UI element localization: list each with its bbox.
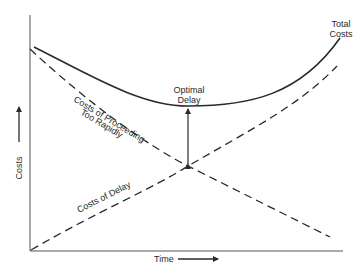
optimal-delay-label-line1: Optimal bbox=[173, 85, 204, 95]
cost-tradeoff-diagram: Costs Time Total Costs Optimal Delay Cos… bbox=[0, 0, 364, 276]
costs-proceeding-line bbox=[30, 49, 330, 237]
x-axis-label: Time bbox=[154, 254, 174, 264]
optimal-delay-label-line2: Delay bbox=[177, 95, 201, 105]
total-costs-label-line2: Costs bbox=[329, 29, 353, 39]
y-axis-label: Costs bbox=[14, 156, 24, 180]
costs-delay-label: Costs of Delay bbox=[75, 179, 132, 215]
costs-proceeding-label-line1: Costs of Proceeding bbox=[72, 94, 147, 144]
total-costs-label-line1: Total bbox=[331, 19, 350, 29]
